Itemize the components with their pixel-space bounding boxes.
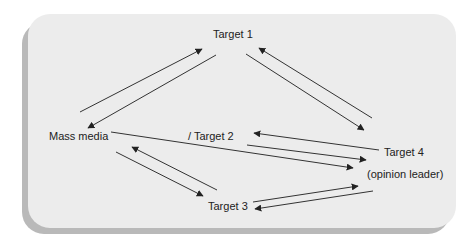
arrow-target4-to-target1: [259, 48, 372, 118]
arrow-target3-to-target4: [253, 186, 358, 202]
node-label-target2: / Target 2: [188, 130, 234, 142]
arrow-target4-to-target2: [254, 133, 379, 150]
node-label-target3: Target 3: [208, 200, 248, 212]
arrow-mass_media-to-target1: [80, 49, 202, 112]
arrow-target1-to-target4: [246, 54, 364, 130]
node-label-mass-media: Mass media: [49, 130, 109, 142]
diagram-canvas: Target 1 Mass media / Target 2 Target 4 …: [0, 0, 475, 247]
arrow-target2-to-target4: [247, 145, 366, 160]
arrow-target4-to-target3: [255, 191, 373, 209]
arrows-group: [80, 48, 379, 209]
arrow-mass_media-to-target3: [116, 152, 203, 196]
arrow-target1-to-mass_media: [88, 55, 216, 128]
node-label-opinion-leader: (opinion leader): [367, 168, 443, 180]
node-label-target4: Target 4: [384, 146, 424, 158]
arrow-target3-to-mass_media: [132, 147, 217, 190]
labels-group: Target 1 Mass media / Target 2 Target 4 …: [49, 28, 443, 212]
node-label-target1: Target 1: [213, 28, 253, 40]
